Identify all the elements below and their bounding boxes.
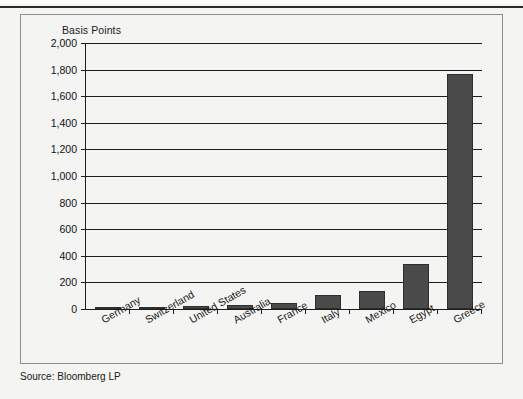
page-background: Basis Points 2,0001,8001,6001,4001,2001,…	[0, 0, 523, 399]
y-axis-title: Basis Points	[62, 24, 121, 36]
bar	[403, 264, 429, 309]
y-axis-tick-label: 1,600	[51, 90, 77, 102]
y-axis-tick-label: 0	[71, 303, 77, 315]
x-axis-labels-group: GermanySwitzerlandUnited StatesAustralia…	[86, 43, 482, 113]
y-axis-tick-label: 1,400	[51, 117, 77, 129]
y-axis-tick-label: 400	[59, 250, 77, 262]
page-header-rule	[0, 6, 523, 8]
y-axis-tick-label: 200	[59, 276, 77, 288]
page-top-margin	[0, 0, 523, 4]
plot-area: 2,0001,8001,6001,4001,2001,0008006004002…	[86, 43, 482, 309]
source-note: Source: Bloomberg LP	[20, 371, 121, 382]
y-axis-tick-label: 1,200	[51, 143, 77, 155]
y-axis-tick-label: 1,000	[51, 170, 77, 182]
y-axis-tick	[81, 309, 86, 310]
y-axis-tick-label: 800	[59, 197, 77, 209]
y-axis-tick-label: 1,800	[51, 64, 77, 76]
chart-figure: Basis Points 2,0001,8001,6001,4001,2001,…	[20, 14, 503, 364]
x-axis-tick	[437, 309, 438, 314]
y-axis-tick-label: 600	[59, 223, 77, 235]
x-axis-tick	[349, 309, 350, 314]
y-axis-tick-label: 2,000	[51, 37, 77, 49]
